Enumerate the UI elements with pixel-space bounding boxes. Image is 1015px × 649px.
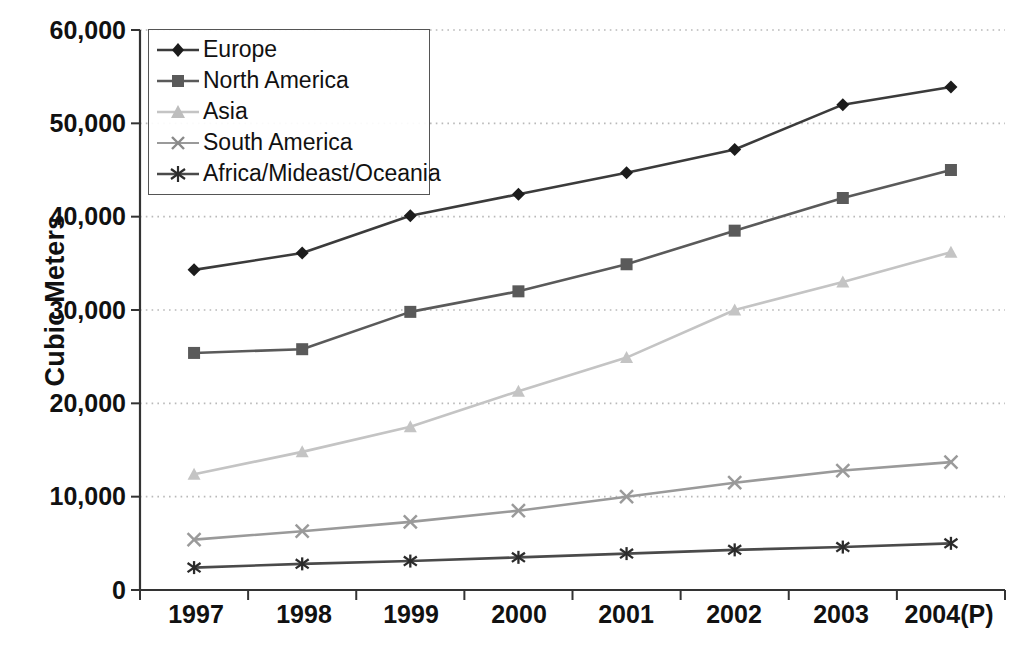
legend-item-africa-mideast-oceania: Africa/Mideast/Oceania bbox=[149, 158, 429, 189]
x-axis-ticks bbox=[140, 590, 1005, 600]
data-point bbox=[620, 166, 633, 179]
triangle-marker-icon bbox=[155, 101, 201, 123]
data-point bbox=[944, 246, 957, 258]
y-axis-ticks bbox=[131, 30, 140, 590]
x-cross-marker-icon bbox=[155, 132, 201, 154]
diamond-marker-icon bbox=[155, 39, 201, 61]
chart-legend: Europe North America Asia bbox=[148, 29, 430, 195]
line-chart: Cubic Meters 60,000 50,000 40,000 30,000… bbox=[0, 0, 1015, 649]
legend-label: North America bbox=[203, 69, 349, 92]
data-point bbox=[621, 258, 633, 270]
legend-item-asia: Asia bbox=[149, 96, 429, 127]
series-line bbox=[194, 252, 951, 474]
data-point bbox=[512, 285, 524, 297]
square-marker-icon bbox=[155, 70, 201, 92]
data-point bbox=[188, 263, 201, 276]
data-point bbox=[296, 343, 308, 355]
legend-label: Europe bbox=[203, 38, 277, 61]
series-south-america bbox=[188, 456, 958, 546]
data-point bbox=[512, 188, 525, 201]
data-point bbox=[404, 306, 416, 318]
legend-item-north-america: North America bbox=[149, 65, 429, 96]
legend-label: Asia bbox=[203, 100, 248, 123]
legend-item-south-america: South America bbox=[149, 127, 429, 158]
legend-label: South America bbox=[203, 131, 353, 154]
series-line bbox=[194, 543, 951, 567]
legend-item-europe: Europe bbox=[149, 34, 429, 65]
series-asia bbox=[188, 246, 958, 480]
data-point bbox=[944, 80, 957, 93]
legend-label: Africa/Mideast/Oceania bbox=[203, 162, 441, 185]
data-point bbox=[945, 164, 957, 176]
data-point bbox=[836, 98, 849, 111]
data-point bbox=[620, 351, 633, 363]
series-line bbox=[194, 462, 951, 539]
x-tick-label: 2004(P) bbox=[884, 602, 1014, 627]
data-point bbox=[296, 247, 309, 260]
data-point bbox=[837, 192, 849, 204]
data-point bbox=[404, 209, 417, 222]
asterisk-marker-icon bbox=[155, 163, 201, 185]
data-point bbox=[729, 225, 741, 237]
data-point bbox=[188, 347, 200, 359]
data-point bbox=[728, 143, 741, 156]
series-africa-mideast-oceania bbox=[188, 537, 958, 574]
